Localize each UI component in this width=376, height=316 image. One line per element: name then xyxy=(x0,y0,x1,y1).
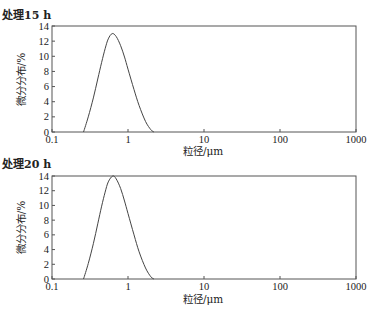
y-tick-label: 8 xyxy=(44,215,49,226)
axes-frame xyxy=(52,176,356,279)
y-tick-label: 2 xyxy=(44,259,49,270)
x-axis-label: 粒径/μm xyxy=(183,291,223,306)
chart-panel-20h: 处理20 h 微分分布/% 024681012140.11101001000 粒… xyxy=(0,0,376,316)
distribution-curve xyxy=(84,176,154,279)
x-tick-label: 100 xyxy=(272,281,288,292)
y-tick-label: 10 xyxy=(39,200,50,211)
plot-area: 024681012140.11101001000 xyxy=(0,0,376,316)
y-tick-label: 6 xyxy=(44,229,49,240)
y-tick-label: 14 xyxy=(39,171,50,182)
x-tick-label: 1 xyxy=(125,281,130,292)
x-tick-label: 0.1 xyxy=(45,281,58,292)
y-tick-label: 12 xyxy=(39,185,50,196)
x-tick-label: 1000 xyxy=(346,281,367,292)
y-tick-label: 4 xyxy=(44,244,50,255)
